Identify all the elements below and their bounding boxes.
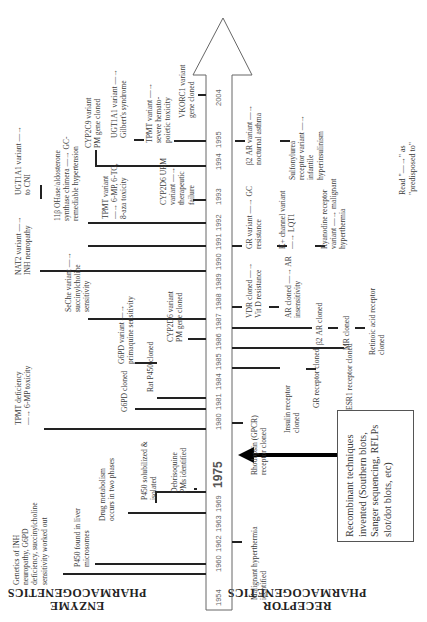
- r-event-1991b: K+ channel variant —→ LQT1: [278, 191, 296, 249]
- year-label-1981: 1981: [214, 393, 223, 410]
- event-1987: CYP2D6 variant PM gene cloned: [166, 291, 184, 342]
- tick-1954: [63, 573, 206, 575]
- tick-1981: [135, 408, 206, 410]
- r-tick-1987a: [232, 327, 312, 329]
- event-1992b: 11β OHase/aldosterone synthase chimera —…: [53, 136, 81, 221]
- r-event-1987a: β2 AR cloned: [315, 303, 324, 345]
- tick-1994-v: [95, 150, 97, 165]
- tick-1987: [188, 338, 206, 340]
- r-tick-1986: [232, 347, 344, 349]
- event-1985: G6PD variant —→ primaquine sensitivity: [117, 296, 135, 364]
- event-1991: CYP2D6 URM variant —→ therapeutic failur…: [159, 158, 196, 205]
- year-label-1993: 1993: [214, 188, 223, 205]
- r-event-1991a: GR variant —→ GC resistance: [245, 186, 263, 249]
- event-1960: P450 found in liver microsomes: [73, 508, 91, 567]
- event-1995: UGT1A1 variant —→ Gilbert's syndrome: [110, 69, 128, 138]
- year-label-1969: 1969: [214, 495, 223, 512]
- tick-1963: [128, 512, 206, 514]
- event-1981: G6PD cloned: [120, 371, 129, 412]
- event-1995b: TPMT variant —→ severe hemato- poietic t…: [145, 83, 173, 143]
- year-label-1994: 1994: [214, 153, 223, 170]
- year-label-1980: 1980: [214, 413, 223, 430]
- tick-1990: [88, 245, 206, 247]
- tick-1995b: [174, 140, 206, 142]
- r-event-1985: GR receptor cloned: [312, 349, 321, 408]
- event-1980: TPMT deficiency —→ 6-MP toxicity: [14, 366, 32, 425]
- r-tick-1980: [232, 422, 243, 424]
- event-1994: CYP2C9 variant PM gene cloned: [84, 98, 102, 148]
- year-label-1962: 1962: [214, 535, 223, 552]
- r-event-1988: VDR cloned —→ Vit D resistance: [245, 263, 263, 318]
- r-tick-1988: [232, 306, 242, 308]
- r-tick-1995a: [235, 140, 245, 142]
- r-tick-1984: [232, 367, 280, 369]
- r-event-1986: ESR1 receptor cloned: [345, 343, 354, 410]
- r-tick-1987b: [328, 327, 338, 329]
- year-label-1987: 1987: [214, 313, 223, 330]
- tick-1993: [40, 185, 42, 199]
- year-label-2004: 2004: [214, 89, 223, 106]
- r-event-1991c: Ryanodine receptor variant —→ malignant …: [320, 179, 348, 249]
- tick-1995a: [134, 139, 144, 141]
- year-label-1985: 1985: [214, 353, 223, 370]
- r-event-1984: Insulin receptor cloned: [283, 385, 301, 433]
- year-label-1984: 1984: [214, 373, 223, 390]
- year-label-1963: 1963: [214, 515, 223, 532]
- r-tick-1987c: [355, 327, 365, 329]
- event-1969: P450 solubilized & isolated: [140, 441, 158, 500]
- event-1986: SeChe variant —→ succinylcholine sensiti…: [64, 252, 92, 312]
- r-event-1987b: MR cloned: [342, 316, 351, 350]
- tick-1984: [157, 397, 206, 399]
- reading-note: Read "—→" as "predisposed to": [398, 142, 418, 195]
- event-1984: Rat P450 cloned: [146, 342, 155, 392]
- year-label-1988: 1988: [214, 293, 223, 310]
- r-event-1980: Rhodopsin (GPCR) receptor cloned: [250, 415, 268, 475]
- year-label-1995: 1995: [214, 131, 223, 148]
- r-event-1995b: Sulfonylurea receptor variant —→ infanti…: [288, 115, 325, 180]
- tick-1986: [88, 318, 206, 320]
- event-1989: NAT2 variant —→ INH neuropathy: [14, 216, 32, 275]
- event-1963: Drug metabolism occurs in two phases: [98, 458, 116, 521]
- tick-1960: [95, 563, 206, 565]
- tick-2004: [198, 94, 206, 96]
- year-label-1954: 1954: [214, 589, 223, 606]
- event-1992: TPMT variant —→ 6-MP, 6-TG, 8-aza toxici…: [101, 163, 129, 219]
- r-event-1989: AR cloned —→ AR insensitivity: [284, 256, 302, 318]
- event-1993: UGT1A1 variant —→ to CNI: [14, 126, 32, 195]
- r-tick-1991a: [232, 245, 242, 247]
- year-label-1975: 1975: [211, 461, 225, 488]
- r-event-1960: Malignant hyperthermia identified: [250, 526, 268, 600]
- r-event-1995a: β2 AR variant —→ nocturnal asthma: [245, 105, 263, 165]
- year-label-1986: 1986: [214, 333, 223, 350]
- event-1975: Debrisoquine PMs identified: [170, 448, 188, 493]
- year-label-1990: 1990: [214, 253, 223, 270]
- year-label-1960: 1960: [214, 555, 223, 572]
- event-1954: Genetics of INH neuropathy, G6PD deficie…: [12, 502, 49, 585]
- recombinant-techniques-text: Recombinant techniques invented (Souther…: [344, 425, 394, 537]
- event-2004: VKORC1 variant gene cloned: [178, 65, 196, 118]
- recombinant-techniques-box: Recombinant techniques invented (Souther…: [337, 410, 414, 542]
- tick-1975: [194, 488, 197, 490]
- tick-1992: [88, 222, 206, 224]
- year-label-1992: 1992: [214, 214, 223, 231]
- r-tick-1960: [232, 541, 242, 543]
- r-event-1987c: Retinoic acid receptor cloned: [368, 288, 386, 355]
- r-tick-1989: [269, 306, 279, 308]
- year-label-1989: 1989: [214, 273, 223, 290]
- year-label-1991: 1991: [214, 233, 223, 250]
- tick-1980: [44, 428, 206, 430]
